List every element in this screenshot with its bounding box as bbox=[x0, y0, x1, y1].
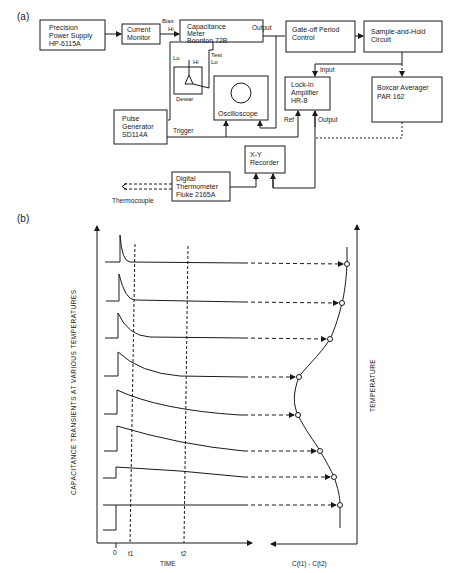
tick-label-t2: t2 bbox=[181, 550, 187, 557]
panel-a-block-diagram: (a) Precision Power Supply HP-6115A Curr… bbox=[17, 11, 442, 205]
sample-hold-line1: Sample-and-Hold bbox=[371, 28, 426, 36]
boxcar-line2: PAR 162 bbox=[377, 93, 405, 100]
transient-3 bbox=[105, 313, 244, 338]
transients bbox=[103, 235, 244, 530]
diode-icon bbox=[185, 75, 193, 84]
scope-screen-icon bbox=[231, 83, 251, 103]
thermocouple-label: Thermocouple bbox=[112, 197, 154, 205]
connector-2 bbox=[244, 302, 338, 303]
transient-2 bbox=[106, 274, 244, 302]
current-monitor-line2: Monitor bbox=[127, 34, 151, 41]
output-label: Output bbox=[252, 24, 272, 32]
dlts-point-1 bbox=[345, 262, 350, 267]
transient-8 bbox=[103, 505, 244, 530]
test-lo-label: Lo bbox=[211, 59, 218, 65]
transient-1 bbox=[105, 235, 244, 263]
dewar-hi-label: Hi bbox=[193, 59, 199, 65]
thermo-line3: Fluke 2165A bbox=[176, 191, 216, 198]
cmeter-line2: Meter bbox=[187, 30, 206, 37]
dewar-label: Dewar bbox=[176, 96, 193, 102]
wire-boxcar-output bbox=[315, 122, 402, 138]
connector-3 bbox=[244, 338, 326, 339]
panel-a-label: (a) bbox=[17, 11, 29, 22]
dlts-curve bbox=[294, 247, 347, 528]
cmeter-line3: Boonton 72B bbox=[187, 37, 228, 44]
figure-canvas: (a) Precision Power Supply HP-6115A Curr… bbox=[0, 0, 454, 573]
transient-5 bbox=[104, 390, 244, 415]
t1-dashed-line bbox=[130, 244, 135, 543]
temperature-label: TEMPERATURE bbox=[369, 359, 376, 412]
connectors bbox=[244, 263, 343, 505]
tick-label-0: 0 bbox=[113, 549, 117, 556]
signal-label: C(t1) - C(t2) bbox=[292, 560, 327, 568]
lockin-line3: HR-8 bbox=[291, 97, 307, 104]
thermo-line2: Thermometer bbox=[176, 183, 219, 190]
oscilloscope-label: Oscilloscope bbox=[218, 110, 258, 118]
bias-label: Bias bbox=[162, 18, 174, 24]
transient-7 bbox=[103, 467, 244, 478]
lockin-output-label: Output bbox=[318, 116, 338, 124]
transient-6 bbox=[104, 426, 244, 451]
wire-test-lo bbox=[193, 42, 213, 88]
t2-dashed-line bbox=[184, 246, 188, 543]
lockin-line1: Lock-in bbox=[291, 81, 314, 88]
trigger-label: Trigger bbox=[173, 127, 194, 135]
lockin-line2: Amplifier bbox=[291, 89, 319, 97]
tick-label-t1: t1 bbox=[128, 550, 134, 557]
thermo-line1: Digital bbox=[176, 175, 196, 183]
dlts-points bbox=[296, 262, 350, 508]
gate-off-line1: Gate-off Period bbox=[292, 26, 339, 33]
hi-label: Hi bbox=[168, 26, 174, 32]
connector-1 bbox=[244, 263, 343, 264]
xy-line2: Recorder bbox=[250, 159, 279, 166]
dlts-point-7 bbox=[332, 475, 337, 480]
dlts-point-6 bbox=[318, 449, 323, 454]
pulse-gen-line2: Generator bbox=[122, 123, 154, 130]
dlts-point-2 bbox=[340, 301, 345, 306]
pulse-gen-line1: Pulse bbox=[122, 115, 140, 122]
current-monitor-line1: Current bbox=[127, 26, 150, 33]
panel-b-label: (b) bbox=[17, 213, 29, 224]
lo-label: Lo bbox=[173, 55, 180, 61]
test-label: Test bbox=[211, 52, 222, 58]
y-axis-label: CAPACITANCE TRANSIENTS AT VARIOUS TEMPER… bbox=[70, 289, 77, 495]
pulse-gen-line3: SD114A bbox=[122, 131, 148, 138]
x-axis-label: TIME bbox=[160, 560, 176, 567]
input-label: Input bbox=[320, 66, 335, 74]
dlts-point-3 bbox=[328, 337, 333, 342]
dlts-point-4 bbox=[297, 375, 302, 380]
transient-4 bbox=[104, 352, 244, 377]
panel-b-chart: (b) CAPACITANCE TRANSIENTS AT VARIOUS TE… bbox=[17, 213, 376, 568]
power-supply-line1: Precision bbox=[49, 24, 78, 31]
gate-off-line2: Control bbox=[292, 34, 315, 41]
power-supply-line3: HP-6115A bbox=[49, 40, 81, 47]
boxcar-line1: Boxcar Averager bbox=[377, 84, 429, 92]
wire-thermo-to-xy bbox=[230, 174, 256, 187]
sample-hold-line2: Circuit bbox=[371, 36, 391, 43]
dewar-box bbox=[174, 67, 202, 94]
ref-label: Ref bbox=[284, 116, 294, 123]
dlts-point-5 bbox=[296, 413, 301, 418]
power-supply-line2: Power Supply bbox=[49, 32, 93, 40]
dlts-point-8 bbox=[338, 503, 343, 508]
xy-line1: X-Y bbox=[250, 151, 262, 158]
